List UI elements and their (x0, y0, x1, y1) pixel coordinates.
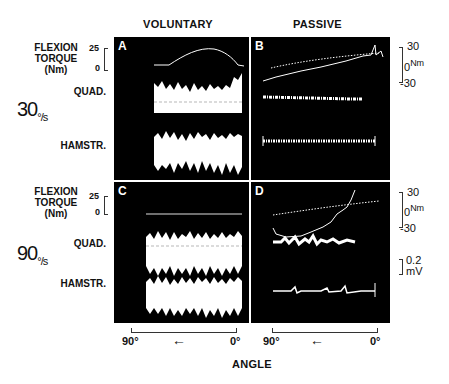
nm-tick-30-bottom: 30 (407, 186, 419, 198)
panel-c: C (114, 182, 249, 323)
angle-90-left: 90° (122, 335, 139, 347)
torque-scale-bracket-bottom (104, 196, 108, 215)
torque-tick-25-top: 25 (89, 43, 99, 53)
torque-label-line3: (Nm) (26, 208, 86, 219)
hamstr-label-top: HAMSTR. (44, 140, 106, 151)
panel-d-traces (251, 182, 390, 323)
angle-90-right: 90° (263, 335, 280, 347)
panel-d: D (251, 182, 390, 323)
arrow-left-icon: ← (310, 332, 324, 348)
angle-0-right: 0° (370, 335, 381, 347)
x-axis-label: ANGLE (232, 358, 272, 370)
nm-tick-0-bottom: 0Nm (404, 203, 424, 218)
torque-scale-bracket-top (104, 48, 108, 71)
panel-a-traces (114, 37, 249, 180)
torque-tick-0-top: 0 (95, 63, 100, 73)
torque-label-line3: (Nm) (26, 64, 86, 75)
nm-tick-0-top: 0Nm (404, 58, 424, 73)
torque-label-line1: FLEXION (26, 42, 86, 53)
nm-tick-minus30-bottom: -30 (400, 222, 416, 234)
mv-scale-label: 0.2mV (406, 255, 423, 277)
quad-label-top: QUAD. (60, 86, 106, 97)
torque-tick-0-bottom: 0 (95, 207, 100, 217)
speed-label-30: 30°/s (17, 98, 47, 123)
torque-label-top: FLEXION TORQUE (Nm) (26, 42, 86, 75)
panel-a: A (114, 37, 249, 180)
mv-scale-bracket (399, 259, 403, 275)
hamstr-label-bottom: HAMSTR. (44, 278, 106, 289)
speed-label-90: 90°/s (17, 242, 47, 267)
torque-label-line2: TORQUE (26, 197, 86, 208)
column-header-voluntary: VOLUNTARY (143, 18, 213, 30)
nm-tick-30-top: 30 (407, 40, 419, 52)
angle-0-left: 0° (230, 335, 241, 347)
arrow-left-icon: ← (172, 332, 186, 348)
panel-c-traces (114, 182, 249, 323)
torque-label-line2: TORQUE (26, 53, 86, 64)
torque-tick-25-bottom: 25 (89, 191, 99, 201)
quad-label-bottom: QUAD. (60, 238, 106, 249)
panel-b-traces (251, 37, 390, 180)
angle-bracket-right (272, 328, 378, 333)
torque-label-line1: FLEXION (26, 186, 86, 197)
panel-b: B (251, 37, 390, 180)
torque-label-bottom: FLEXION TORQUE (Nm) (26, 186, 86, 219)
nm-tick-minus30-top: -30 (400, 77, 416, 89)
column-header-passive: PASSIVE (293, 18, 342, 30)
